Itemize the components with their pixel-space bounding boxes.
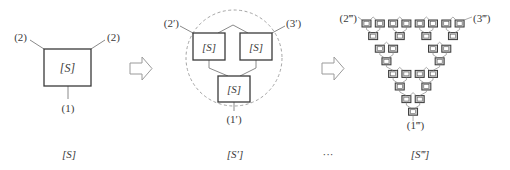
- small-s-box-glyph: [417, 97, 422, 101]
- caption-s: [S]: [62, 148, 76, 160]
- connector: [410, 93, 416, 96]
- port-line-right: [272, 26, 285, 33]
- port-label-right: (2): [107, 31, 120, 44]
- port-label-bottom: (1): [62, 102, 75, 115]
- ellipsis: ···: [323, 148, 334, 160]
- small-s-box-glyph: [377, 22, 382, 26]
- roof-connector: [218, 25, 248, 33]
- small-s-box-glyph: [371, 34, 376, 38]
- connector: [400, 90, 407, 96]
- connector: [428, 27, 433, 33]
- connector: [388, 52, 393, 58]
- caption-s-prime: [S′]: [227, 148, 243, 160]
- connector: [433, 65, 440, 71]
- port-line-right: [91, 40, 105, 49]
- connector: [402, 77, 407, 83]
- port-label-left: (2′): [164, 17, 180, 30]
- connector: [397, 17, 403, 20]
- port-label-bottom: (1‴): [407, 119, 425, 132]
- port-label-right: (3‴): [473, 12, 491, 25]
- hollow-right-arrow-icon: [130, 57, 152, 80]
- port-label-left: (2): [14, 31, 27, 44]
- port-line-left: [30, 40, 44, 49]
- connector: [415, 103, 420, 109]
- small-s-box-glyph: [411, 110, 416, 114]
- connector: [402, 27, 407, 33]
- connector: [442, 52, 447, 58]
- small-s-box-glyph: [444, 22, 449, 26]
- port-label-right: (3′): [286, 17, 302, 30]
- stage-s-prime: [S] [S] [S] (2′) (3′) (1′) [S′]: [164, 10, 302, 160]
- connector: [423, 67, 429, 70]
- recursive-structure-diagram: [S] (2) (2) (1) [S] [S] [S] [S] (2′) (3′…: [0, 0, 510, 170]
- small-s-box-glyph: [431, 72, 436, 76]
- connector: [420, 90, 427, 96]
- small-s-box-glyph: [377, 47, 382, 51]
- connector: [393, 77, 398, 83]
- connector: [423, 17, 429, 20]
- connector: [433, 52, 438, 58]
- s-box-label: [S]: [227, 83, 241, 95]
- small-s-box-glyph: [391, 72, 396, 76]
- port-label-bottom: (1′): [226, 113, 242, 126]
- small-s-box-glyph: [424, 85, 429, 89]
- connector: [393, 27, 398, 33]
- stage-s: [S] (2) (2) (1) [S]: [14, 31, 120, 160]
- small-s-box-glyph: [404, 72, 409, 76]
- small-s-box-glyph: [404, 97, 409, 101]
- port-label-left: (2‴): [340, 12, 358, 25]
- small-s-box-glyph: [431, 22, 436, 26]
- s-box-label: [S]: [249, 41, 263, 53]
- small-s-box-glyph: [437, 59, 442, 63]
- connector: [370, 17, 376, 20]
- small-s-box-glyph: [424, 34, 429, 38]
- connector: [446, 27, 451, 33]
- small-s-box-glyph: [431, 47, 436, 51]
- small-s-box-glyph: [391, 22, 396, 26]
- connector: [380, 52, 385, 58]
- stage-s-triple-prime: [358, 17, 472, 121]
- small-s-box-glyph: [404, 22, 409, 26]
- connector: [406, 103, 411, 109]
- connector: [420, 77, 425, 83]
- small-s-box-glyph: [444, 47, 449, 51]
- small-s-box-glyph: [364, 22, 369, 26]
- small-s-box-glyph: [397, 85, 402, 89]
- small-s-box-glyph: [391, 47, 396, 51]
- connector: [428, 77, 433, 83]
- down-connector-right: [240, 60, 256, 76]
- connector: [358, 17, 362, 20]
- small-s-box-glyph: [457, 22, 462, 26]
- connector: [375, 27, 380, 33]
- connector: [383, 42, 389, 45]
- down-connector-left: [209, 60, 228, 76]
- small-s-box-glyph: [417, 22, 422, 26]
- s-box-label: [S]: [60, 61, 76, 75]
- small-s-box-glyph: [417, 72, 422, 76]
- connector: [450, 17, 456, 20]
- connector: [455, 27, 460, 33]
- s-box-label: [S]: [202, 41, 216, 53]
- small-s-box-glyph: [450, 34, 455, 38]
- port-line-left: [180, 26, 193, 33]
- small-s-box-glyph: [397, 34, 402, 38]
- small-s-box-glyph: [384, 59, 389, 63]
- caption-s-triple-prime: [S‴]: [411, 148, 430, 160]
- connector: [386, 65, 393, 71]
- connector: [367, 27, 372, 33]
- connector: [397, 67, 403, 70]
- connector: [437, 42, 443, 45]
- connector: [420, 27, 425, 33]
- connector: [464, 17, 472, 20]
- hollow-right-arrow-icon: [322, 57, 344, 80]
